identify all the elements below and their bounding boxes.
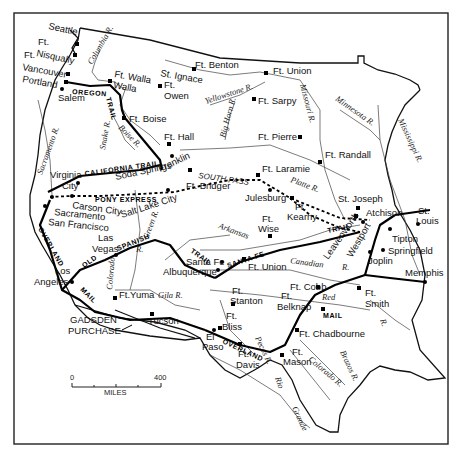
- label-springfield: Springfield: [388, 245, 433, 256]
- place-labels: Seattle Ft. Nisqually Ft. Vancouver Port…: [22, 20, 444, 370]
- label-bliss: Bliss: [222, 321, 242, 332]
- label-smith: Smith: [365, 298, 389, 309]
- label-ft-owen: Ft.: [164, 79, 175, 90]
- label-virginia: Virginia: [50, 169, 82, 180]
- label-ft-cobb: Ft. Cobb: [290, 281, 326, 292]
- label-julesburg: Julesburg: [245, 192, 286, 203]
- scale-bar: 0 400 MILES: [70, 373, 167, 397]
- label-arkansas-river: Arkansas: [216, 220, 251, 241]
- label-red-river: Red: [321, 292, 336, 302]
- label-virginia-city: City: [62, 180, 79, 191]
- label-joplin: Joplin: [368, 255, 393, 266]
- label-st-louis: Louis: [416, 215, 439, 226]
- label-tucson: Tucson: [148, 315, 179, 326]
- label-red-r: R.: [378, 316, 390, 327]
- label-el-paso: Paso: [202, 341, 224, 352]
- label-davis: Davis: [236, 359, 260, 370]
- label-colorado-r: R.: [135, 244, 143, 254]
- label-ft-union-north: Ft. Union: [273, 65, 312, 76]
- label-las-vegas: Vegas: [92, 243, 119, 254]
- label-los: Los: [55, 265, 71, 276]
- scale-max-label: 400: [154, 373, 167, 382]
- label-wise: Wise: [258, 223, 279, 234]
- label-st-joseph: St. Joseph: [338, 193, 383, 204]
- label-las: Las: [98, 232, 114, 243]
- label-ft-yuma: Ft.Yuma: [119, 289, 155, 300]
- label-atchison: Atchison: [366, 207, 402, 218]
- label-ft-sarpy: Ft. Sarpy: [258, 95, 297, 106]
- label-big-horn-river: Big Horn R.: [217, 96, 237, 139]
- label-canadian-river: Canadian: [290, 255, 325, 270]
- scale-min-label: 0: [70, 373, 74, 382]
- label-purchase: PURCHASE: [68, 325, 121, 336]
- label-minnesota-river: Minnesota R.: [333, 93, 377, 128]
- label-ft-nisqually: Ft.: [38, 36, 49, 47]
- label-ft-bliss: Ft.: [226, 310, 237, 321]
- label-tipton: Tipton: [392, 233, 418, 244]
- label-ft-union-south: Ft. Union: [248, 261, 287, 272]
- label-gadsden: GADSDEN: [70, 314, 117, 325]
- label-mississippi-river: Mississippi R.: [396, 116, 426, 164]
- label-ft-bridger: Ft. Bridger: [186, 180, 230, 191]
- label-rio-grande: Grande: [290, 405, 310, 433]
- label-seattle: Seattle: [48, 20, 79, 37]
- label-ft-hall: Ft. Hall: [164, 131, 194, 142]
- label-ft-smith: Ft.: [365, 287, 376, 298]
- gadsden-pointer: [122, 325, 132, 330]
- label-ft-vancouver: Ft.: [24, 49, 35, 60]
- label-platte-river: Platte R.: [288, 174, 320, 194]
- label-gila-river: Gila R.: [158, 290, 183, 300]
- label-pony-express: PONY EXPRESS: [95, 196, 157, 203]
- label-ft-laramie: Ft. Laramie: [262, 163, 310, 174]
- label-los-angeles: Angeles: [34, 276, 69, 287]
- label-albuquerque: Albuquerque: [163, 266, 217, 277]
- label-mail-east: MAIL: [323, 312, 343, 319]
- label-ft-belknap: Ft.: [281, 290, 292, 301]
- label-ft-boise: Ft. Boise: [129, 113, 167, 124]
- label-rio: Rio: [273, 374, 287, 389]
- label-green-river: Green R.: [140, 209, 160, 241]
- label-franklin: Franklin: [156, 150, 191, 174]
- label-belknap: Belknap: [277, 301, 311, 312]
- label-nisqually: Nisqually: [36, 47, 76, 66]
- label-ft-randall: Ft. Randall: [325, 149, 371, 160]
- label-colorado-river: Colorado: [104, 257, 117, 290]
- label-owen: Owen: [164, 90, 189, 101]
- label-colorado-tx-river: Colorado R.: [307, 354, 346, 389]
- label-stanton: Stanton: [230, 295, 263, 306]
- label-snake-river: Snake R.: [97, 119, 112, 150]
- label-ft-chadbourne: Ft. Chadbourne: [299, 328, 365, 339]
- label-oregon-trail-2: TRAIL: [105, 96, 118, 121]
- label-memphis: Memphis: [405, 267, 444, 278]
- label-canadian-r: R.: [341, 262, 349, 272]
- label-kearny: Kearny: [287, 211, 317, 222]
- historical-trails-map: Seattle Ft. Nisqually Ft. Vancouver Port…: [0, 0, 458, 456]
- label-ft-benton: Ft. Benton: [195, 59, 239, 70]
- scale-unit-label: MILES: [104, 388, 127, 397]
- label-ft-pierre: Ft. Pierre: [258, 131, 297, 142]
